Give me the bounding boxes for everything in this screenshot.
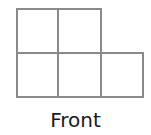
grid-cell-bottom-left	[16, 52, 59, 98]
view-label: Front	[0, 108, 151, 132]
grid-cell-bottom-middle	[57, 52, 102, 98]
grid-cell-top-middle	[57, 8, 102, 54]
grid-cell-bottom-right	[100, 52, 144, 98]
grid-cell-top-left	[16, 8, 59, 54]
